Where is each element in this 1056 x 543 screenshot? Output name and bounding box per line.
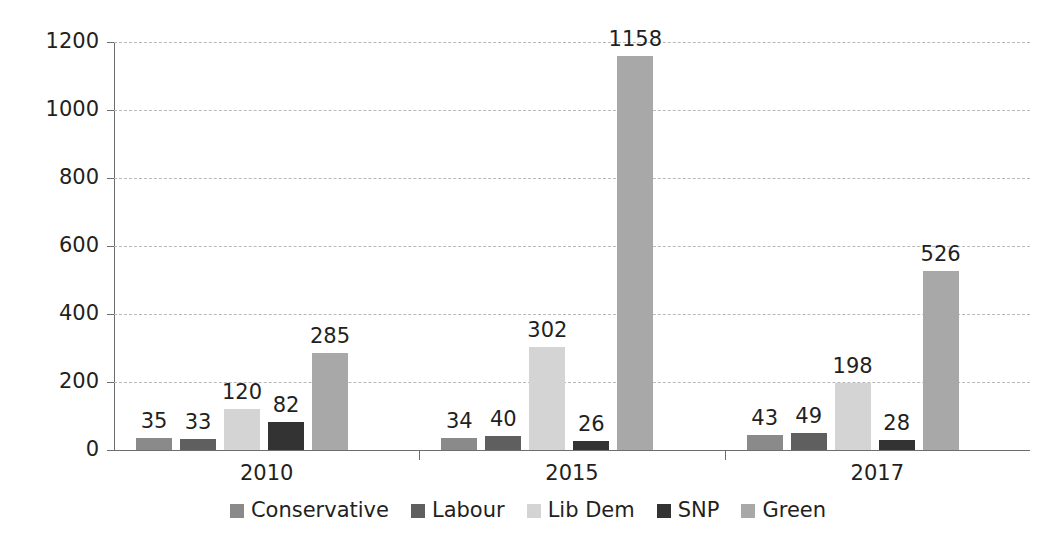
x-axis-category-label: 2010 — [114, 462, 419, 484]
bar-value-label: 526 — [909, 244, 973, 265]
y-axis-tick-label: 0 — [0, 439, 99, 460]
legend-label: Labour — [432, 500, 505, 521]
bar — [573, 441, 609, 450]
legend-swatch-icon — [741, 504, 755, 518]
y-axis-tick-label: 600 — [0, 235, 99, 256]
y-axis-tick-mark — [107, 450, 114, 451]
bar-value-label: 33 — [166, 412, 230, 433]
bar — [923, 271, 959, 450]
bar-value-label: 198 — [821, 356, 885, 377]
bar — [180, 439, 216, 450]
y-axis-tick-label: 200 — [0, 371, 99, 392]
legend-item-labour[interactable]: Labour — [411, 500, 505, 521]
legend-label: Conservative — [251, 500, 389, 521]
y-axis-tick-label: 800 — [0, 167, 99, 188]
x-axis-tick-mark — [725, 451, 726, 460]
bar — [485, 436, 521, 450]
bar-value-label: 82 — [254, 395, 318, 416]
bar — [312, 353, 348, 450]
legend-swatch-icon — [230, 504, 244, 518]
legend-label: Green — [762, 500, 826, 521]
bar-value-label: 26 — [559, 414, 623, 435]
y-axis-tick-mark — [107, 246, 114, 247]
bar-value-label: 1158 — [603, 29, 667, 50]
y-axis-tick-mark — [107, 42, 114, 43]
bar — [747, 435, 783, 450]
bar — [136, 438, 172, 450]
bar — [791, 433, 827, 450]
y-axis-tick-mark — [107, 110, 114, 111]
y-axis-tick-label: 1200 — [0, 31, 99, 52]
legend-label: SNP — [678, 500, 720, 521]
bar-value-label: 40 — [471, 409, 535, 430]
x-axis-category-label: 2017 — [725, 462, 1030, 484]
legend-item-conservative[interactable]: Conservative — [230, 500, 389, 521]
x-axis-category-label: 2015 — [419, 462, 724, 484]
bar-chart: 020040060080010001200 353312082285344030… — [0, 0, 1056, 543]
legend-label: Lib Dem — [548, 500, 635, 521]
x-axis-tick-mark — [419, 451, 420, 460]
legend-item-green[interactable]: Green — [741, 500, 826, 521]
y-axis-tick-label: 1000 — [0, 99, 99, 120]
bar-value-label: 285 — [298, 326, 362, 347]
legend-swatch-icon — [527, 504, 541, 518]
legend-item-lib-dem[interactable]: Lib Dem — [527, 500, 635, 521]
axis-baseline — [114, 450, 1030, 451]
bar-value-label: 49 — [777, 406, 841, 427]
bar — [879, 440, 915, 450]
legend-swatch-icon — [657, 504, 671, 518]
y-axis-tick-mark — [107, 314, 114, 315]
bar — [268, 422, 304, 450]
y-axis-tick-label: 400 — [0, 303, 99, 324]
bar — [617, 56, 653, 450]
legend-item-snp[interactable]: SNP — [657, 500, 720, 521]
plot-area: 3533120822853440302261158434919828526 — [114, 42, 1030, 450]
legend-swatch-icon — [411, 504, 425, 518]
y-axis-tick-mark — [107, 382, 114, 383]
bar-value-label: 302 — [515, 320, 579, 341]
bar — [441, 438, 477, 450]
chart-legend: ConservativeLabourLib DemSNPGreen — [0, 500, 1056, 521]
y-axis-tick-mark — [107, 178, 114, 179]
bar-value-label: 28 — [865, 413, 929, 434]
